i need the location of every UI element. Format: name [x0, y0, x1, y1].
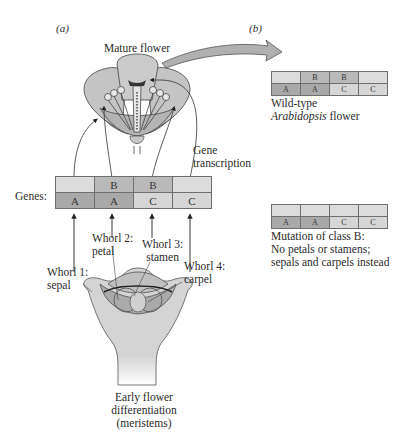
gene-cell	[359, 205, 388, 217]
gene-cell	[301, 205, 330, 217]
panel-b-label: (b)	[249, 22, 262, 34]
mutant-gene-table: A A C C	[271, 204, 388, 229]
gene-cell	[272, 205, 301, 217]
gene-table-row-bottom: A A C C	[56, 193, 212, 209]
gene-cell-c: C	[173, 193, 212, 209]
species-name: Arabidopsis	[271, 110, 327, 122]
mutant-caption-line3: sepals and carpels instead	[271, 256, 389, 269]
mature-flower-label: Mature flower	[104, 42, 170, 55]
gene-cell-a: A	[272, 84, 301, 96]
gene-cell-c: C	[330, 217, 359, 229]
whorl-4-label: Whorl 4: carpel	[184, 260, 225, 286]
gene-cell	[330, 205, 359, 217]
wild-type-caption-line1: Wild-type	[271, 97, 359, 110]
gene-cell-c: C	[134, 193, 173, 209]
whorl-3-label: Whorl 3: stamen	[142, 238, 183, 264]
gene-table-row-top: B B	[56, 177, 212, 193]
gene-cell-b: B	[134, 177, 173, 193]
panel-a-label: (a)	[56, 22, 69, 34]
wild-type-row-bottom: A A C C	[272, 84, 388, 96]
flower-word: flower	[327, 110, 360, 122]
whorl-1-organ: sepal	[47, 279, 88, 292]
meristem-caption: Early flower differentiation (meristems)	[104, 391, 184, 430]
mutant-row-bottom: A A C C	[272, 217, 388, 229]
mutant-row-top	[272, 205, 388, 217]
gene-cell-a: A	[56, 193, 95, 209]
whorl-1-label: Whorl 1: sepal	[47, 266, 88, 292]
gene-cell-a: A	[95, 193, 134, 209]
mutant-caption-line1: Mutation of class B:	[271, 230, 389, 243]
mature-flower-illustration	[84, 54, 190, 154]
gene-cell	[359, 72, 388, 84]
whorl-3-name: Whorl 3:	[142, 238, 183, 251]
mutant-caption-line2: No petals or stamens;	[271, 243, 389, 256]
wild-type-caption-line2: Arabidopsis flower	[271, 110, 359, 123]
gene-transcription-label: Gene transcription	[193, 144, 251, 170]
whorl-1-name: Whorl 1:	[47, 266, 88, 279]
gene-cell-a: A	[301, 84, 330, 96]
gene-cell-a: A	[272, 217, 301, 229]
gene-cell-c: C	[330, 84, 359, 96]
gene-table: B B A A C C	[55, 176, 212, 209]
genes-label: Genes:	[15, 190, 47, 203]
gene-cell	[272, 72, 301, 84]
wild-type-caption: Wild-type Arabidopsis flower	[271, 97, 359, 123]
meristem-caption-line2: differentiation	[104, 404, 184, 417]
whorl-2-label: Whorl 2: petal	[92, 232, 133, 258]
gene-cell	[173, 177, 212, 193]
gene-cell-c: C	[359, 84, 388, 96]
whorl-2-organ: petal	[92, 245, 133, 258]
gene-cell	[56, 177, 95, 193]
whorl-4-organ: carpel	[184, 273, 225, 286]
whorl-3-organ: stamen	[142, 251, 183, 264]
gene-transcription-line2: transcription	[193, 157, 251, 170]
wild-type-gene-table: B B A A C C	[271, 71, 388, 96]
gene-cell-b: B	[95, 177, 134, 193]
gene-cell-b: B	[301, 72, 330, 84]
gene-cell-a: A	[301, 217, 330, 229]
whorl-2-name: Whorl 2:	[92, 232, 133, 245]
meristem-caption-line1: Early flower	[104, 391, 184, 404]
mutant-caption: Mutation of class B: No petals or stamen…	[271, 230, 389, 269]
wild-type-row-top: B B	[272, 72, 388, 84]
gene-transcription-line1: Gene	[193, 144, 251, 157]
gene-cell-c: C	[359, 217, 388, 229]
whorl-4-name: Whorl 4:	[184, 260, 225, 273]
meristem-caption-line3: (meristems)	[104, 417, 184, 430]
big-arrow-icon	[162, 40, 282, 68]
gene-cell-b: B	[330, 72, 359, 84]
